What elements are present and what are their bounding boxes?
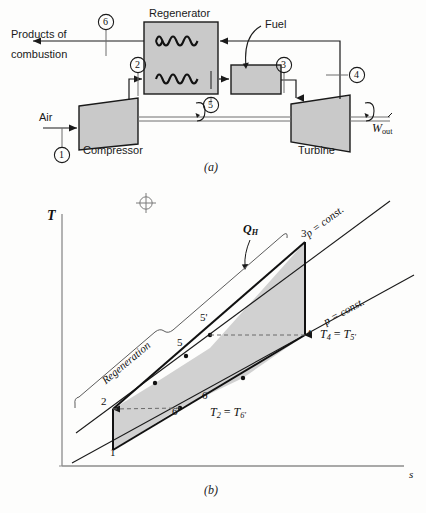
fuel-label: Fuel bbox=[265, 19, 286, 30]
ts-state-label-5p: 5' bbox=[200, 312, 207, 323]
temp-upper-rhs-subscript: 5' bbox=[350, 333, 356, 342]
state-number-5: 5 bbox=[208, 100, 213, 110]
regenerator-label: Regenerator bbox=[149, 8, 210, 19]
compressor-label: Compressor bbox=[83, 145, 143, 156]
ts-state-label-4: 4 bbox=[306, 328, 312, 339]
caption-a: (a) bbox=[204, 160, 218, 175]
qh-leader bbox=[242, 240, 250, 270]
turbine-label: Turbine bbox=[298, 145, 335, 156]
air-label: Air bbox=[39, 112, 52, 123]
ts-diagram-drawing bbox=[0, 180, 426, 513]
dot-mid-lower bbox=[153, 381, 157, 385]
dot-state-6 bbox=[241, 376, 245, 380]
ts-state-label-5: 5 bbox=[177, 337, 183, 348]
state-number-1: 1 bbox=[59, 150, 64, 160]
ts-x-axis-label: s bbox=[409, 469, 413, 480]
shaft bbox=[138, 117, 390, 121]
ts-state-label-6: 6 bbox=[202, 390, 208, 401]
work-out-label: Wout bbox=[372, 122, 392, 136]
temp-equality-lower: T2 = T6' bbox=[210, 406, 246, 420]
heat-added-label: QH bbox=[243, 223, 258, 237]
fuel-leader-line bbox=[243, 26, 261, 69]
combustor-body bbox=[231, 65, 281, 94]
heat-added-symbol: Q bbox=[243, 222, 252, 236]
compressor-outlet-line bbox=[129, 79, 142, 100]
exhaust-label-line1: Products of bbox=[11, 29, 67, 40]
figure-page: Products of combustion Regenerator Fuel … bbox=[0, 0, 426, 513]
exhaust-label-line2: combustion bbox=[11, 49, 67, 60]
registration-crosshair-icon bbox=[136, 193, 156, 213]
temp-lower-rhs-subscript: 6' bbox=[240, 411, 246, 420]
ts-y-axis-label: T bbox=[47, 209, 56, 223]
ts-state-label-1: 1 bbox=[110, 447, 116, 458]
state-number-6: 6 bbox=[103, 17, 108, 27]
state-number-2: 2 bbox=[135, 60, 140, 70]
ts-state-label-6p: 6' bbox=[172, 406, 179, 417]
combustor-to-turbine-line bbox=[281, 80, 296, 98]
heat-added-subscript: H bbox=[252, 228, 258, 237]
temp-lower-lhs-symbol: T bbox=[210, 405, 217, 419]
temp-equality-upper: T4 = T5' bbox=[320, 328, 356, 342]
ts-state-label-3: 3 bbox=[301, 228, 307, 239]
work-out-symbol: W bbox=[372, 121, 382, 135]
state-number-4: 4 bbox=[354, 70, 359, 80]
state-number-3: 3 bbox=[281, 60, 286, 70]
shaft-end-tick bbox=[388, 113, 392, 117]
compressor-body bbox=[79, 98, 138, 150]
ts-state-label-2: 2 bbox=[101, 396, 107, 407]
work-out-subscript: out bbox=[382, 127, 392, 136]
caption-b: (b) bbox=[204, 483, 218, 498]
dot-state-5 bbox=[184, 354, 188, 358]
temp-upper-lhs-symbol: T bbox=[320, 327, 327, 341]
